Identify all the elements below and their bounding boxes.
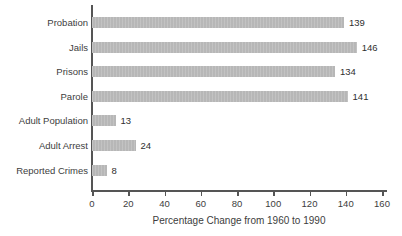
x-axis-tick-label: 160 (374, 198, 390, 209)
category-label: Adult Population (19, 115, 88, 126)
bar-value-label: 146 (362, 42, 378, 53)
bar-value-label: 13 (121, 115, 132, 126)
x-axis-tick-label: 140 (338, 198, 354, 209)
bar (92, 17, 344, 28)
x-axis-tick (346, 191, 348, 196)
x-axis-tick (201, 191, 203, 196)
bar-value-label: 141 (353, 91, 369, 102)
x-axis-tick-label: 40 (159, 198, 170, 209)
category-label: Parole (61, 91, 88, 102)
x-axis-tick (165, 191, 167, 196)
x-axis-tick-label: 120 (302, 198, 318, 209)
x-axis-tick-label: 100 (265, 198, 281, 209)
category-label: Jails (69, 42, 88, 53)
category-label: Probation (47, 17, 88, 28)
x-axis-tick-label: 20 (123, 198, 134, 209)
category-label: Prisons (56, 66, 88, 77)
bar-value-label: 139 (349, 17, 365, 28)
bar (92, 115, 116, 126)
bar-value-label: 134 (340, 66, 356, 77)
bar-chart: 020406080100120140160 ProbationJailsPris… (0, 0, 402, 236)
x-axis-tick-label: 80 (232, 198, 243, 209)
x-axis-tick (237, 191, 239, 196)
x-axis-line (91, 190, 387, 192)
x-axis-tick-label: 60 (195, 198, 206, 209)
bar (92, 42, 357, 53)
category-label: Adult Arrest (39, 140, 88, 151)
x-axis-tick (382, 191, 384, 196)
bar-value-label: 8 (112, 165, 117, 176)
x-axis-tick (273, 191, 275, 196)
bar (92, 165, 107, 176)
bar-value-label: 24 (141, 140, 152, 151)
x-axis-tick (92, 191, 94, 196)
x-axis-tick (128, 191, 130, 196)
bar (92, 66, 335, 77)
x-axis-title: Percentage Change from 1960 to 1990 (91, 215, 387, 227)
bar (92, 140, 136, 151)
x-axis-tick (310, 191, 312, 196)
bar (92, 91, 348, 102)
x-axis-tick-label: 0 (89, 198, 94, 209)
category-label: Reported Crimes (16, 165, 88, 176)
